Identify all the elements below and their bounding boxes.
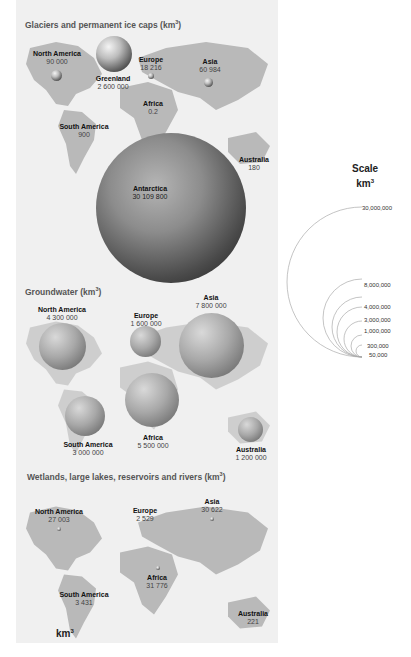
glaciers-label-greenland: Greenland2 600 000 bbox=[96, 75, 131, 91]
wetlands-label-south-america: South America3 431 bbox=[59, 591, 108, 607]
groundwater-label-australia: Australia1 200 000 bbox=[235, 446, 266, 462]
wetlands-sphere-africa bbox=[156, 566, 160, 570]
wetlands-label-europe: Europe2 529 bbox=[133, 507, 157, 523]
glaciers-label-australia: Australia180 bbox=[239, 156, 269, 172]
glaciers-label-antarctica: Antarctica30 109 800 bbox=[132, 185, 167, 201]
wetlands-sphere-asia bbox=[210, 517, 214, 521]
scale-label-1000000: 1,000,000 bbox=[364, 328, 391, 334]
groundwater-label-africa: Africa5 500 000 bbox=[137, 434, 168, 450]
glaciers-sphere-europe bbox=[148, 73, 154, 79]
wetlands-unit-label: km3 bbox=[56, 628, 74, 639]
groundwater-sphere-europe bbox=[130, 326, 161, 357]
scale-label-50000: 50,000 bbox=[369, 352, 387, 358]
wetlands-label-asia: Asia30 622 bbox=[201, 498, 222, 514]
groundwater-label-south-america: South America3 000 000 bbox=[63, 441, 112, 457]
scale-label-8000000: 8,000,000 bbox=[364, 282, 391, 288]
groundwater-title: Groundwater (km3) bbox=[25, 286, 101, 297]
wetlands-label-australia: Australia221 bbox=[238, 610, 268, 626]
glaciers-label-africa: Africa0.2 bbox=[143, 100, 163, 116]
groundwater-sphere-asia bbox=[179, 313, 244, 378]
wetlands-label-africa: Africa31 776 bbox=[146, 574, 167, 590]
wetlands-sphere-north-america bbox=[57, 527, 61, 531]
glaciers-sphere-asia bbox=[204, 78, 213, 87]
scale-label-300000: 300,000 bbox=[367, 343, 389, 349]
scale-title: Scalekm3 bbox=[352, 163, 378, 190]
glaciers-sphere-greenland bbox=[96, 36, 132, 72]
wetlands-label-north-america: North America27 003 bbox=[35, 508, 83, 524]
wetlands-title: Wetlands, large lakes, reservoirs and ri… bbox=[27, 471, 226, 482]
groundwater-label-asia: Asia7 800 000 bbox=[195, 294, 226, 310]
scale-circles bbox=[280, 200, 370, 365]
scale-label-30000000: 30,000,000 bbox=[362, 205, 392, 211]
glaciers-title: Glaciers and permanent ice caps (km3) bbox=[25, 19, 181, 30]
groundwater-sphere-north-america bbox=[39, 323, 86, 370]
groundwater-sphere-south-america bbox=[65, 396, 105, 436]
glaciers-sphere-antarctica bbox=[96, 133, 246, 283]
groundwater-sphere-australia bbox=[238, 417, 263, 442]
glaciers-label-asia: Asia60 984 bbox=[199, 58, 220, 74]
scale-label-4000000: 4,000,000 bbox=[364, 304, 391, 310]
glaciers-label-europe: Europe18 216 bbox=[139, 56, 163, 72]
scale-label-3000000: 3,000,000 bbox=[364, 317, 391, 323]
glaciers-label-north-america: North America90 000 bbox=[33, 50, 81, 66]
glaciers-label-south-america: South America900 bbox=[59, 123, 108, 139]
glaciers-sphere-north-america bbox=[51, 70, 62, 81]
groundwater-label-north-america: North America4 300 000 bbox=[38, 306, 86, 322]
groundwater-sphere-africa bbox=[125, 373, 179, 427]
